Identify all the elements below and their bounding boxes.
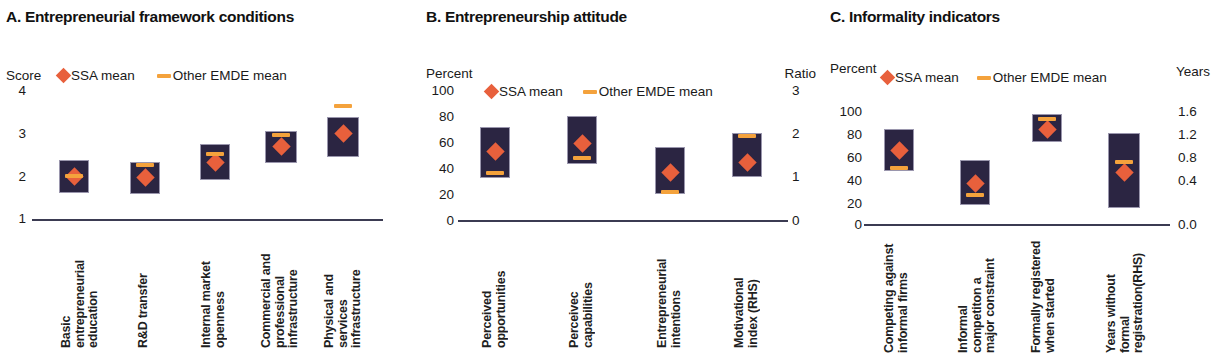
panel-a-ytick-1: 1: [2, 212, 26, 225]
panel-a-legend: SSA mean Other EMDE mean: [58, 68, 287, 83]
panel-a-axis-line: [32, 219, 383, 221]
legend-ssa-mean: SSA mean: [486, 84, 563, 99]
panel-b-title: B. Entrepreneurship attitude: [426, 8, 627, 26]
panel-c-ytick-20: 20: [824, 197, 862, 210]
panel-b-ytick-20: 20: [420, 188, 454, 201]
panel-c-category-2: Informal competiton a major constraint: [957, 231, 998, 353]
legend-ssa-label: SSA mean: [895, 70, 959, 85]
panel-b-category-1: Perceived opportunities: [481, 226, 508, 348]
panel-b-legend: SSA mean Other EMDE mean: [486, 84, 713, 99]
panel-c-ytick-0: 0: [824, 218, 862, 231]
legend-other-emde-mean: Other EMDE mean: [977, 70, 1107, 85]
panel-c-emde-marker-4: [1115, 160, 1133, 164]
panel-c-ytick-right-1-2: 1.2: [1178, 128, 1212, 141]
dash-marker-icon: [977, 76, 991, 80]
panel-c-emde-marker-1: [890, 166, 908, 170]
panel-a-category-1: Basic entrepreneurial education: [60, 226, 101, 348]
panel-c-left-unit: Percent: [830, 61, 877, 76]
panel-b-ytick-right-3: 3: [792, 84, 820, 97]
panel-c-ytick-60: 60: [824, 151, 862, 164]
legend-ssa-label: SSA mean: [499, 84, 563, 99]
panel-b-ytick-100: 100: [420, 84, 454, 97]
panel-c-ytick-100: 100: [824, 105, 862, 118]
panel-c-ytick-80: 80: [824, 128, 862, 141]
panel-b-ytick-60: 60: [420, 136, 454, 149]
dash-marker-icon: [157, 74, 171, 78]
panel-a-category-2: R&D transfer: [137, 226, 151, 348]
diamond-marker-icon: [880, 70, 896, 86]
panel-a-category-3: Internal market openness: [200, 226, 227, 348]
panel-b-ytick-right-2: 2: [792, 127, 820, 140]
panel-b-category-4: Motivational index (RHS): [733, 226, 760, 348]
panel-a-ytick-4: 4: [2, 84, 26, 97]
legend-ssa-label: SSA mean: [71, 68, 135, 83]
panel-b-emde-marker-2: [573, 156, 591, 160]
panel-a-ytick-3: 3: [2, 127, 26, 140]
panel-b-category-2: Perceivec capabilities: [568, 226, 595, 348]
panel-a-emde-marker-5: [334, 104, 352, 108]
panel-a: A. Entrepreneurial framework conditions …: [0, 0, 420, 355]
panel-a-category-5: Physical and services infrastructure: [323, 226, 364, 348]
panel-b-category-3: Entrepreneurial intentions: [656, 226, 683, 348]
legend-emde-label: Other EMDE mean: [993, 70, 1107, 85]
panel-b-right-unit: Ratio: [784, 66, 816, 81]
panel-b-ytick-40: 40: [420, 162, 454, 175]
panel-c-category-1: Competing against informal firms: [883, 231, 910, 353]
panel-c-ytick-right-0-8: 0.8: [1178, 151, 1212, 164]
legend-emde-label: Other EMDE mean: [173, 68, 287, 83]
panel-a-emde-marker-4: [272, 133, 290, 137]
diamond-marker-icon: [484, 84, 500, 100]
dash-marker-icon: [583, 90, 597, 94]
panel-c-ytick-right-0-0: 0.0: [1178, 218, 1212, 231]
panel-a-emde-marker-2: [136, 163, 154, 167]
panel-c: C. Informality indicators Percent Years …: [820, 0, 1214, 355]
panel-a-emde-marker-3: [206, 152, 224, 156]
panel-b-axis-line: [458, 220, 788, 222]
panel-b-ytick-right-1: 1: [792, 170, 820, 183]
panel-c-category-4: Years without formal registration(RHS): [1105, 231, 1146, 353]
legend-other-emde-mean: Other EMDE mean: [157, 68, 287, 83]
diamond-marker-icon: [56, 68, 72, 84]
panel-a-title: A. Entrepreneurial framework conditions: [6, 8, 294, 26]
panel-b-ytick-0: 0: [420, 214, 454, 227]
legend-ssa-mean: SSA mean: [58, 68, 135, 83]
panel-b-emde-marker-1: [486, 171, 504, 175]
panel-c-right-unit: Years: [1176, 64, 1210, 79]
panel-b-left-unit: Percent: [426, 66, 473, 81]
panel-c-ytick-40: 40: [824, 174, 862, 187]
panel-a-left-unit: Score: [6, 68, 41, 83]
panel-b-emde-marker-3: [661, 190, 679, 194]
panel-c-axis-line: [864, 224, 1170, 226]
panel-a-ytick-2: 2: [2, 170, 26, 183]
panel-c-ytick-right-1-6: 1.6: [1178, 105, 1212, 118]
panel-c-ytick-right-0-4: 0.4: [1178, 174, 1212, 187]
panel-a-emde-marker-1: [65, 174, 83, 178]
panel-c-title: C. Informality indicators: [830, 8, 1000, 26]
panel-a-category-4: Commercial and professional infrastructu…: [260, 226, 301, 348]
panel-b-emde-marker-4: [738, 134, 756, 138]
panel-c-legend: SSA mean Other EMDE mean: [882, 70, 1107, 85]
panel-b-ytick-80: 80: [420, 110, 454, 123]
panel-b-ytick-right-0: 0: [792, 214, 820, 227]
legend-emde-label: Other EMDE mean: [599, 84, 713, 99]
legend-ssa-mean: SSA mean: [882, 70, 959, 85]
panel-c-emde-marker-2: [966, 193, 984, 197]
legend-other-emde-mean: Other EMDE mean: [583, 84, 713, 99]
panel-c-category-3: Formally registered when started: [1030, 231, 1057, 353]
panel-c-emde-marker-3: [1038, 117, 1056, 121]
panel-b: B. Entrepreneurship attitude Percent Rat…: [420, 0, 820, 355]
